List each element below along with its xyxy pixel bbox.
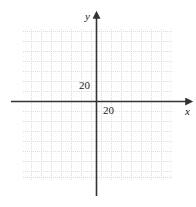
y-axis-tick-label-20: 20	[79, 80, 90, 91]
x-axis-tick-label-20: 20	[103, 105, 114, 116]
coordinate-plane-figure: 20 20 y x	[0, 0, 196, 207]
axes-layer	[0, 0, 196, 207]
y-axis-label: y	[85, 11, 90, 22]
x-axis-label: x	[185, 106, 190, 117]
